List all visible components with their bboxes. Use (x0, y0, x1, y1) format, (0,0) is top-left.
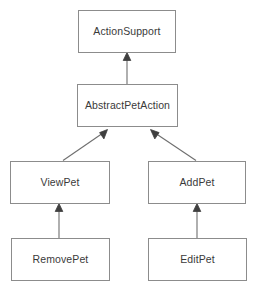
class-box-add-pet[interactable]: AddPet (148, 161, 246, 204)
class-name-label: AddPet (179, 177, 214, 188)
edge-addpet-to-abstract (151, 130, 197, 161)
edge-editpet-to-addpet (193, 204, 201, 239)
class-box-abstract-pet-action[interactable]: AbstractPetAction (77, 84, 178, 127)
class-box-action-support[interactable]: ActionSupport (78, 10, 176, 53)
class-name-label: AbstractPetAction (85, 100, 170, 111)
class-name-label: RemovePet (33, 254, 89, 265)
class-box-edit-pet[interactable]: EditPet (148, 238, 247, 281)
class-name-label: ActionSupport (93, 26, 160, 37)
class-box-remove-pet[interactable]: RemovePet (11, 238, 110, 281)
edge-removepet-to-viewpet (55, 204, 63, 239)
class-name-label: EditPet (180, 254, 215, 265)
uml-class-diagram: ActionSupport AbstractPetAction ViewPet … (0, 0, 263, 286)
class-box-view-pet[interactable]: ViewPet (10, 161, 110, 204)
class-name-label: ViewPet (40, 177, 79, 188)
edge-abstract-to-actionsupport (123, 53, 131, 85)
edge-viewpet-to-abstract (63, 130, 108, 161)
